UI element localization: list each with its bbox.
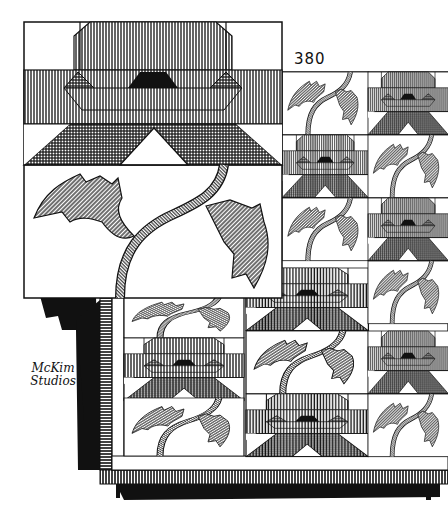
quilt-block — [282, 135, 368, 198]
quilt-block — [282, 198, 368, 261]
quilt-drawing — [0, 0, 448, 529]
quilt-border-bottom — [112, 456, 448, 470]
signature-line-2: Studios — [27, 375, 79, 388]
quilt-illustration: 380 McKim Studios — [0, 0, 448, 529]
quilt-block — [368, 135, 448, 198]
quilt-block — [368, 331, 448, 394]
quilt-block — [368, 261, 448, 324]
studio-signature: McKim Studios — [27, 362, 79, 388]
quilt-block — [368, 394, 448, 457]
quilt-block — [124, 296, 244, 338]
quilt-block — [282, 72, 368, 135]
quilt-fringe-left — [100, 296, 112, 470]
pattern-number: 380 — [294, 50, 326, 68]
quilt-block — [246, 331, 368, 394]
quilt-fringe-bottom — [100, 470, 448, 484]
quilt-block — [124, 398, 244, 456]
quilt-block — [246, 394, 368, 457]
detail-block — [24, 22, 282, 298]
quilt-block — [368, 198, 448, 261]
quilt-block — [368, 72, 448, 135]
quilt-block — [124, 338, 244, 401]
